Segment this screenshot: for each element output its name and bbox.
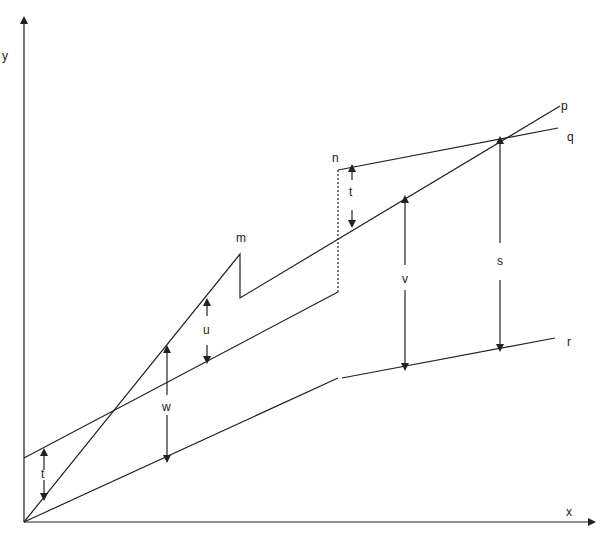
line-r-lower <box>24 378 338 522</box>
gap-v-label: v <box>402 273 408 285</box>
gap-w-label: w <box>162 401 171 413</box>
gap-t-mid-label: t <box>349 186 352 198</box>
gap-u-label: u <box>203 324 210 336</box>
point-m-label: m <box>236 232 246 244</box>
gap-t-left-label: t <box>41 468 44 480</box>
diagram-canvas <box>0 0 602 542</box>
y-axis-label: y <box>2 50 8 62</box>
line-r-label: r <box>567 336 571 348</box>
line-r <box>342 338 555 378</box>
gap-s-label: s <box>497 255 503 267</box>
line-q-lower <box>24 292 338 458</box>
x-axis-label: x <box>566 506 572 518</box>
line-p <box>24 106 560 522</box>
line-q <box>338 128 558 170</box>
point-n-label: n <box>332 152 339 164</box>
line-q-label: q <box>567 131 574 143</box>
line-p-label: p <box>561 100 568 112</box>
